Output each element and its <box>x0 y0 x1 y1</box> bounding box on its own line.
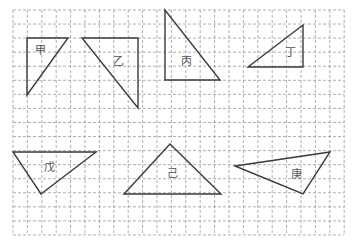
triangle-label: 丙 <box>181 56 192 67</box>
triangle-5 <box>13 152 96 194</box>
triangle-label: 己 <box>167 168 178 179</box>
triangle-label: 戊 <box>44 162 55 173</box>
triangle-label: 庚 <box>291 169 302 180</box>
triangle-2 <box>82 38 138 108</box>
triangle-label: 甲 <box>35 45 46 56</box>
dashed-grid <box>13 10 344 235</box>
triangle-label: 丁 <box>285 47 296 58</box>
triangle-label: 乙 <box>113 56 124 67</box>
grid-diagram <box>0 0 354 245</box>
triangle-3 <box>165 10 220 80</box>
